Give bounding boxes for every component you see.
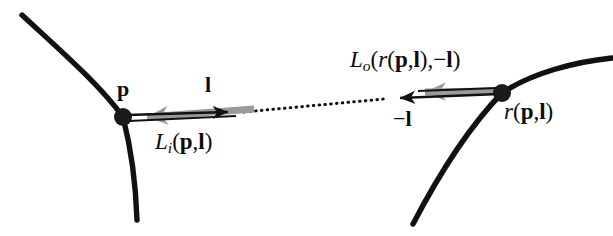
label-minus-l-text: l [405, 106, 411, 131]
label-point-p: p [117, 78, 129, 100]
label-Li-close-paren: ) [205, 129, 213, 154]
right-surface-curve [413, 58, 612, 224]
label-Lo-ray-fn: r [378, 47, 387, 72]
label-Li-symbol: L [155, 129, 168, 154]
label-r-open-paren: ( [513, 99, 521, 124]
label-point-p-text: p [117, 76, 129, 101]
label-direction-l-text: l [205, 72, 211, 97]
label-Lo-subscript: o [363, 57, 371, 74]
label-ray-point: r(p,l) [504, 100, 553, 123]
label-Li-open-paren: ( [172, 129, 180, 154]
label-r-close-paren: ) [546, 99, 554, 124]
label-Lo-ray-open-paren: ( [387, 47, 395, 72]
dotted-ray-line [244, 99, 384, 112]
surface-point-p-dot [114, 108, 132, 126]
label-Lo-ray-close-paren: ) [420, 47, 428, 72]
label-Lo-ray-arg-p: p [395, 47, 408, 72]
label-r-fn: r [504, 99, 513, 124]
label-minus-sign: − [393, 106, 405, 131]
label-Lo-minus-sign: − [433, 47, 446, 72]
label-negative-direction-l: −l [393, 108, 412, 130]
label-r-arg-p: p [521, 99, 534, 124]
label-outgoing-radiance: Lo(r(p,l),−l) [350, 48, 460, 71]
label-incoming-radiance: Li(p,l) [155, 130, 212, 153]
label-Lo-symbol: L [350, 47, 363, 72]
label-Lo-close-paren: ) [453, 47, 461, 72]
label-Li-arg-p: p [180, 129, 193, 154]
light-transport-diagram: p l Li(p,l) Lo(r(p,l),−l) −l r(p,l) [0, 0, 613, 236]
label-direction-l: l [205, 74, 211, 96]
label-Li-subscript: i [168, 139, 172, 156]
